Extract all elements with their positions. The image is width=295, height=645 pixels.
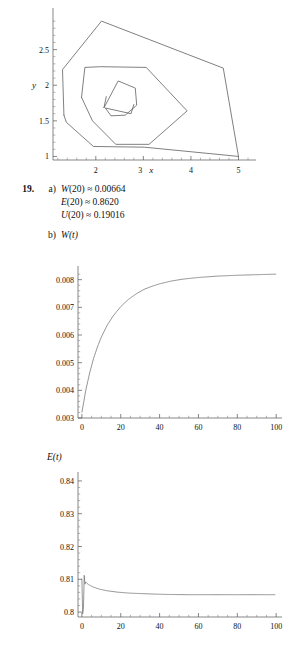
tick-label: 100 <box>270 622 282 631</box>
tick-label: 0.8 <box>64 608 74 617</box>
answer-text-block: 19. a) W(20) ≈ 0.00664 E(20) ≈ 0.8620 U(… <box>0 183 295 242</box>
phase-portrait-svg: 2345x11.522.5y <box>0 0 295 180</box>
tick-label: 0.003 <box>56 414 74 423</box>
y-axis-label: y <box>31 80 36 90</box>
answer-key-page: 2345x11.522.5y 19. a) W(20) ≈ 0.00664 E(… <box>0 0 295 645</box>
tick-label: 2 <box>94 166 98 175</box>
tick-label: 0.82 <box>60 543 74 552</box>
exercise-number: 19. <box>0 183 36 196</box>
exercise-row-a: 19. a) W(20) ≈ 0.00664 E(20) ≈ 0.8620 U(… <box>0 183 295 222</box>
tick-label: 0.83 <box>60 510 74 519</box>
rel-U: ≈ <box>86 210 91 220</box>
part-b-content: W(t) <box>61 229 78 242</box>
trajectory-middle-loop <box>82 67 188 145</box>
tick-label: 0.008 <box>56 276 74 285</box>
tick-label: 0 <box>80 622 84 631</box>
plot-label-W: W(t) <box>61 229 78 242</box>
tick-label: 5 <box>236 166 240 175</box>
value-E: 0.8620 <box>93 197 119 207</box>
tick-label: 100 <box>270 423 282 432</box>
e-of-t-chart: 0204060801000.80.810.820.830.84 <box>0 462 295 642</box>
tick-label: 3 <box>138 166 142 175</box>
tick-label: 0.007 <box>56 303 74 312</box>
trajectory-outer-loop <box>63 21 239 156</box>
phase-portrait-chart: 2345x11.522.5y <box>0 0 295 180</box>
fn-arg-U: (20) <box>68 210 84 220</box>
tick-label: 80 <box>233 622 241 631</box>
w-curve <box>82 274 276 412</box>
part-label-a: a) <box>36 183 61 196</box>
tick-label: 1.5 <box>39 117 49 126</box>
tick-label: 20 <box>117 423 125 432</box>
w-of-t-chart: 0204060801000.0030.0040.0050.0060.0070.0… <box>0 258 295 436</box>
trajectory-inner-loop <box>104 81 137 116</box>
e-curve <box>82 575 275 613</box>
tick-label: 20 <box>117 622 125 631</box>
tick-label: 0.006 <box>56 331 74 340</box>
tick-label: 0.004 <box>56 386 74 395</box>
tick-label: 60 <box>194 622 202 631</box>
fn-name-U: U <box>61 210 68 220</box>
tick-label: 0 <box>80 423 84 432</box>
exercise-row-b: b) W(t) <box>0 229 295 242</box>
spacer <box>0 222 295 229</box>
fn-name-W: W <box>61 184 69 194</box>
tick-label: 60 <box>194 423 202 432</box>
tick-label: 0.005 <box>56 359 74 368</box>
value-U: 0.19016 <box>94 210 125 220</box>
fn-arg-E: (20) <box>67 197 83 207</box>
value-W: 0.00664 <box>95 184 126 194</box>
tick-label: 0.81 <box>60 575 74 584</box>
tick-label: 80 <box>233 423 241 432</box>
equation-line-U: U(20) ≈ 0.19016 <box>61 209 126 222</box>
tick-label: 4 <box>189 166 193 175</box>
w-of-t-svg: 0204060801000.0030.0040.0050.0060.0070.0… <box>0 258 295 436</box>
tick-label: 0.84 <box>60 477 74 486</box>
tick-label: 40 <box>156 423 164 432</box>
equation-line-W: W(20) ≈ 0.00664 <box>61 183 126 196</box>
rel-W: ≈ <box>87 184 92 194</box>
x-axis-label: x <box>148 165 153 175</box>
part-label-b: b) <box>36 229 61 242</box>
tick-label: 40 <box>156 622 164 631</box>
part-a-equations: W(20) ≈ 0.00664 E(20) ≈ 0.8620 U(20) ≈ 0… <box>61 183 126 222</box>
plot-label-E: E(t) <box>47 452 62 462</box>
tick-label: 2.5 <box>39 46 49 55</box>
equation-line-E: E(20) ≈ 0.8620 <box>61 196 126 209</box>
e-of-t-svg: 0204060801000.80.810.820.830.84 <box>0 462 295 642</box>
tick-label: 1 <box>45 152 49 161</box>
rel-E: ≈ <box>85 197 90 207</box>
fn-arg-W: (20) <box>69 184 85 194</box>
tick-label: 2 <box>45 81 49 90</box>
